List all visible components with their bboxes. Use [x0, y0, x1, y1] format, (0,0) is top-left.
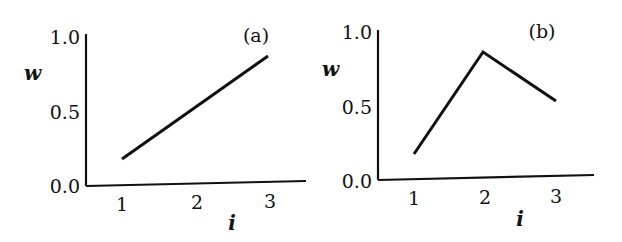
- xtick-b-2: 2: [479, 186, 491, 208]
- x-axis-b: [378, 175, 594, 180]
- panel-label-b: (b): [529, 20, 556, 42]
- xtick-b-3: 3: [550, 185, 562, 207]
- xtick-a-2: 2: [191, 191, 203, 213]
- ytick-b-0: 0.0: [342, 170, 372, 192]
- xtick-a-3: 3: [264, 190, 276, 212]
- panel-b: 1.0 0.5 0.0 w 1 2 3 i (b): [322, 20, 594, 231]
- ytick-a-1: 1.0: [50, 26, 80, 48]
- xtick-b-1: 1: [408, 187, 420, 209]
- panel-label-a: (a): [243, 24, 269, 46]
- ytick-b-1: 1.0: [342, 21, 372, 43]
- figure: 1.0 0.5 0.0 w 1 2 3 i (a) 1.0 0.5 0.0 w …: [0, 0, 622, 242]
- xtick-a-1: 1: [116, 193, 128, 215]
- panel-a: 1.0 0.5 0.0 w 1 2 3 i (a): [24, 24, 306, 235]
- series-line-a: [122, 56, 268, 159]
- xlabel-b: i: [516, 207, 524, 231]
- ytick-b-05: 0.5: [342, 96, 372, 118]
- x-axis-a: [86, 181, 306, 186]
- xlabel-a: i: [228, 211, 236, 235]
- ylabel-b: w: [322, 57, 340, 81]
- ytick-a-0: 0.0: [50, 175, 80, 197]
- series-line-b: [414, 52, 556, 154]
- ytick-a-05: 0.5: [50, 101, 80, 123]
- ylabel-a: w: [24, 61, 42, 85]
